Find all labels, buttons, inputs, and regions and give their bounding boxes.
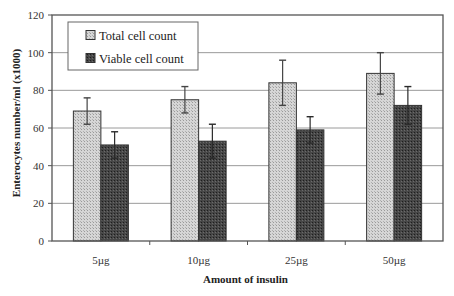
legend-swatch-viable <box>86 54 95 63</box>
x-axis-title: Amount of insulin <box>203 273 288 285</box>
x-tick-label: 10µg <box>187 254 210 266</box>
legend-label: Viable cell count <box>99 52 184 66</box>
legend-label: Total cell count <box>99 29 177 43</box>
x-tick-label: 50µg <box>383 254 406 266</box>
y-tick-label: 100 <box>28 47 45 59</box>
bar-viable <box>394 105 422 241</box>
bar-total <box>73 111 101 241</box>
bar-total <box>269 83 297 241</box>
y-tick-label: 120 <box>28 9 45 21</box>
y-axis-ticks: 020406080100120 <box>28 9 53 247</box>
bar-total <box>367 73 395 241</box>
x-tick-label: 25µg <box>285 254 308 266</box>
bar-chart: 020406080100120 5µg10µg25µg50µg Total ce… <box>0 0 454 296</box>
legend: Total cell countViable cell count <box>68 22 198 70</box>
x-tick-label: 5µg <box>92 254 110 266</box>
bar-total <box>171 100 199 241</box>
y-tick-label: 20 <box>33 197 45 209</box>
bar-viable <box>296 130 324 241</box>
bars-layer <box>73 73 421 241</box>
y-axis-title: Enterocytes number/ml (x1000) <box>10 49 23 198</box>
x-axis-ticks: 5µg10µg25µg50µg <box>92 241 406 266</box>
y-tick-label: 40 <box>33 160 45 172</box>
legend-swatch-total <box>86 31 95 40</box>
y-tick-label: 0 <box>39 235 45 247</box>
y-tick-label: 80 <box>33 84 45 96</box>
y-tick-label: 60 <box>33 122 45 134</box>
bar-viable <box>101 145 129 241</box>
